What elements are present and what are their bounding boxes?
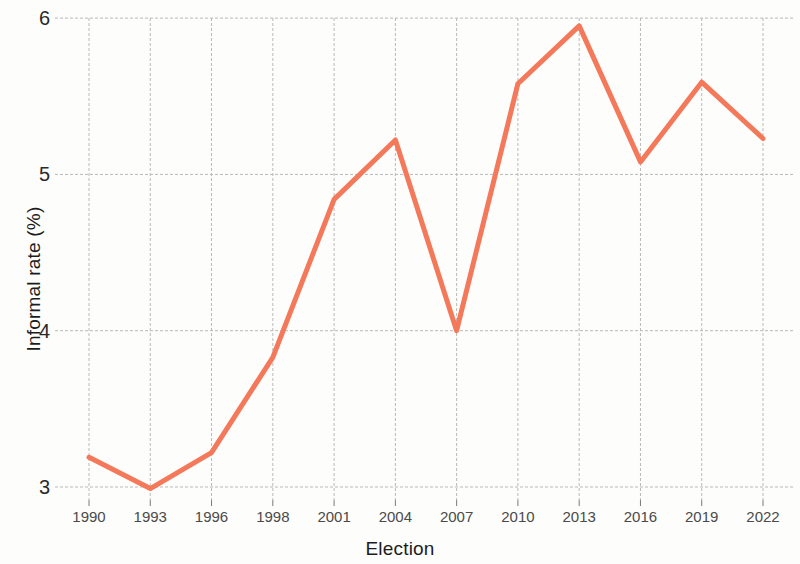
plot-area <box>0 0 800 564</box>
x-axis-tick-label: 2010 <box>501 508 534 525</box>
y-axis-title: Informal rate (%) <box>23 149 45 409</box>
x-axis-tick-label: 1996 <box>195 508 228 525</box>
x-axis-tick-label: 1993 <box>134 508 167 525</box>
y-axis-tick-label: 6 <box>22 7 50 30</box>
x-axis-tick-label: 1998 <box>256 508 289 525</box>
x-axis-title: Election <box>0 538 800 560</box>
x-axis-tick-label: 2022 <box>746 508 779 525</box>
data-series-line <box>89 26 763 489</box>
line-chart: 3456 19901993199619982001200420072010201… <box>0 0 800 564</box>
axis-tick-marks <box>89 500 763 506</box>
y-axis-tick-label: 3 <box>22 476 50 499</box>
x-axis-tick-label: 2019 <box>685 508 718 525</box>
x-axis-tick-label: 1990 <box>72 508 105 525</box>
x-axis-tick-label: 2001 <box>317 508 350 525</box>
x-axis-tick-label: 2007 <box>440 508 473 525</box>
x-axis-tick-label: 2016 <box>624 508 657 525</box>
grid-lines <box>55 18 795 500</box>
x-axis-tick-label: 2004 <box>379 508 412 525</box>
x-axis-tick-label: 2013 <box>562 508 595 525</box>
